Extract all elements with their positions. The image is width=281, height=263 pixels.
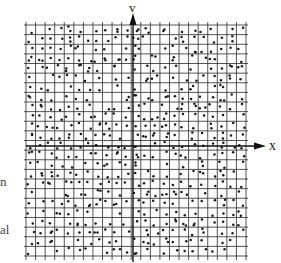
x-axis-arrow-icon [254, 143, 266, 150]
grid [24, 22, 248, 260]
margin-text-fragment: al [0, 222, 9, 238]
phase-space-diagram [0, 0, 281, 263]
v-axis-label: v [129, 0, 136, 16]
x-axis-label: x [269, 138, 276, 154]
margin-text-fragment: n [0, 174, 7, 190]
